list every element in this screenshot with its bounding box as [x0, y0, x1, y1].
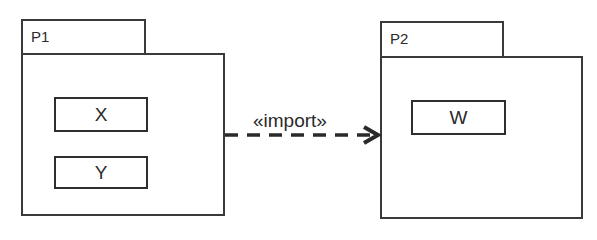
- import-stereotype-label: «import»: [253, 110, 327, 132]
